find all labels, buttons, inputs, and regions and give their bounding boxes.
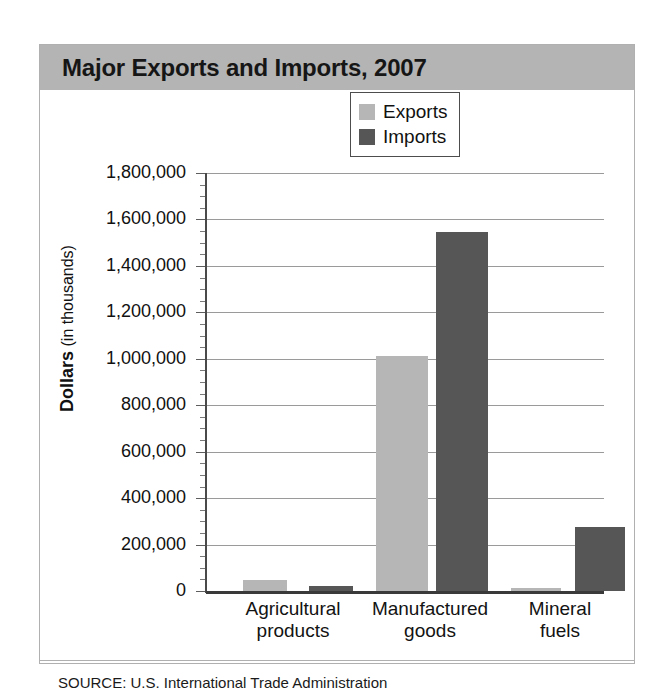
chart-title-band: Major Exports and Imports, 2007 [40, 45, 634, 90]
bar-imports [575, 527, 625, 591]
plot-region: Dollars (in thousands) 0200,000400,00060… [40, 90, 634, 663]
source-note: SOURCE: U.S. International Trade Adminis… [58, 674, 387, 691]
x-category-label: Mineralfuels [470, 598, 650, 643]
legend-swatch-exports [359, 104, 375, 120]
bar-imports [309, 586, 353, 591]
chart-title: Major Exports and Imports, 2007 [62, 54, 427, 82]
bar-imports [436, 232, 488, 591]
chart-figure: Major Exports and Imports, 2007 Dollars … [39, 44, 635, 664]
legend-item: Exports [359, 99, 447, 124]
x-category-label-line: fuels [470, 620, 650, 642]
legend-label-exports: Exports [383, 101, 447, 123]
legend-item: Imports [359, 124, 447, 149]
bar-exports [243, 580, 287, 591]
chart-legend: Exports Imports [350, 92, 460, 157]
source-divider [40, 660, 634, 661]
bar-exports [511, 588, 561, 591]
legend-swatch-imports [359, 129, 375, 145]
bars-layer [40, 90, 634, 663]
source-text: U.S. International Trade Administration [131, 674, 388, 691]
source-prefix: SOURCE: [58, 674, 126, 691]
bar-exports [376, 356, 428, 591]
x-category-label-line: Mineral [470, 598, 650, 620]
legend-label-imports: Imports [383, 126, 446, 148]
